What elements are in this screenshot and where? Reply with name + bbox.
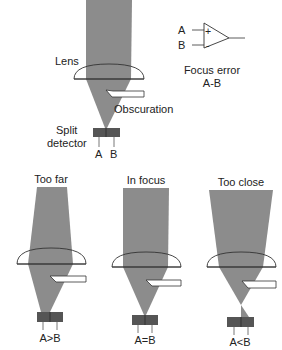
- beam-in-focus: [123, 188, 169, 267]
- case-result-in-focus: A=B: [134, 334, 155, 346]
- case-too-close: Too close A<B: [207, 176, 276, 348]
- diverging-cone-too-close: [241, 305, 249, 317]
- case-title-too-far: Too far: [34, 173, 68, 185]
- beam-collimated: [86, 0, 132, 79]
- obscuration-label: Obscuration: [114, 103, 173, 115]
- split-detector: [227, 317, 254, 327]
- main-optical-setup: Lens Obscuration Split detector A B: [47, 0, 173, 160]
- focus-error-diagram: Lens Obscuration Split detector A B A B …: [0, 0, 282, 350]
- case-title-in-focus: In focus: [127, 174, 166, 186]
- obscuration-icon: [242, 281, 276, 288]
- obscuration-icon: [146, 280, 181, 286]
- amp-input-b-label: B: [178, 39, 185, 51]
- cone-in-focus: [123, 267, 168, 315]
- case-too-far: Too far A>B: [17, 173, 86, 344]
- focus-error-caption: Focus error: [184, 64, 241, 76]
- beam-too-far: [28, 187, 73, 264]
- lens-label: Lens: [55, 55, 79, 67]
- beam-too-close: [209, 190, 273, 267]
- detector-b-label: B: [110, 148, 117, 160]
- case-title-too-close: Too close: [218, 176, 264, 188]
- obscuration-icon: [106, 90, 144, 97]
- split-detector: [93, 128, 120, 137]
- differential-amplifier: A B + - Focus error A-B: [178, 23, 245, 89]
- amp-minus-sign: -: [206, 39, 210, 51]
- detector-a-label: A: [95, 148, 103, 160]
- case-result-too-far: A>B: [39, 332, 60, 344]
- amp-plus-sign: +: [205, 25, 211, 37]
- split-detector-label-line2: detector: [47, 137, 87, 149]
- focus-error-formula: A-B: [203, 77, 221, 89]
- case-in-focus: In focus A=B: [112, 174, 181, 346]
- amp-input-a-label: A: [178, 24, 186, 36]
- cone-too-far: [28, 264, 73, 312]
- split-detector-label-line1: Split: [56, 124, 77, 136]
- obscuration-icon: [50, 276, 86, 282]
- case-result-too-close: A<B: [229, 336, 250, 348]
